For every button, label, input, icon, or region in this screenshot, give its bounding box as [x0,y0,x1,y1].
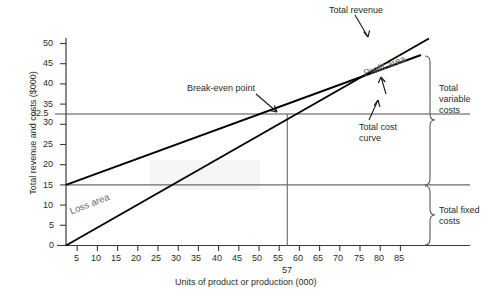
x-tick-label-70: 70 [333,253,343,263]
y-tick-label-15: 15 [43,180,53,190]
x-axis-title: Units of product or production (000) [175,277,317,287]
total-fixed-costs-brace [425,186,435,245]
total-cost-curve-label-line1: Total cost [359,122,397,132]
profit-area-arrow [378,77,386,94]
y-tick-label-45: 45 [43,58,53,68]
total-fixed-costs-label-line2: costs [439,216,460,227]
y-tick-label-50: 50 [43,38,53,48]
total-variable-costs-label-line2: variable [439,94,471,105]
x-tick-label-65: 65 [313,253,323,263]
x-tick-label-80: 80 [374,253,384,263]
x-tick-label-75: 75 [354,253,364,263]
total-fixed-costs-label-line1: Total fixed [439,205,480,216]
x-tick-label-30: 30 [171,253,181,263]
x-ticks [77,246,400,252]
x-tick-label-20: 20 [131,253,141,263]
x-tick-label-50: 50 [252,253,262,263]
x-tick-label-57: 57 [282,265,292,275]
total-cost-curve-label-line2: curve [359,133,381,143]
x-tick-label-5: 5 [74,253,79,263]
x-tick-label-60: 60 [293,253,303,263]
y-axis-title: Total revenue and costs ($000) [28,53,38,213]
y-tick-label-25: 25 [43,139,53,149]
total-revenue-arrow [355,15,370,37]
x-tick-label-85: 85 [394,253,404,263]
total-cost-curve-arrow [369,100,380,120]
total-variable-costs-label-line3: costs [439,105,460,116]
y-tick-label-5: 5 [49,220,54,230]
total-variable-costs-brace [425,56,435,185]
x-tick-label-35: 35 [191,253,201,263]
y-tick-label-30: 30 [43,117,53,127]
y-tick-label-0: 0 [49,240,54,250]
y-tick-label-20: 20 [43,159,53,169]
x-tick-label-10: 10 [91,253,101,263]
break-even-arrow [256,94,277,112]
break-even-point-label: Break-even point [187,83,255,93]
x-tick-label-55: 55 [273,253,283,263]
x-tick-label-25: 25 [151,253,161,263]
breakeven-chart: 50 45 40 35 30 25 20 15 10 5 0 32.5 5 10… [0,0,491,298]
total-revenue-label: Total revenue [329,5,383,15]
x-tick-label-40: 40 [212,253,222,263]
y-tick-label-40: 40 [43,78,53,88]
x-tick-label-15: 15 [111,253,121,263]
y-tick-label-10: 10 [43,200,53,210]
x-tick-label-45: 45 [232,253,242,263]
total-variable-costs-label-line1: Total [439,83,458,94]
y-ticks [60,44,66,246]
